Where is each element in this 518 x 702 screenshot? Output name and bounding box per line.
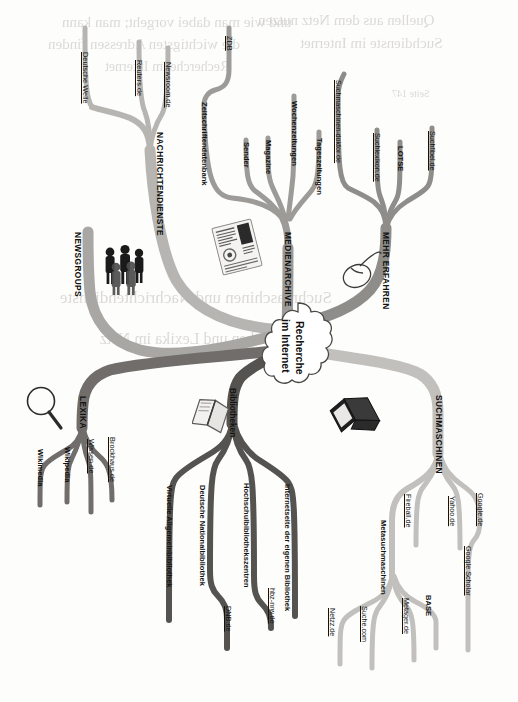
leaf-label-yahoo-de[interactable]: Yahoo.de: [449, 496, 456, 526]
sub-label-magazine[interactable]: Magazine: [264, 140, 272, 174]
leaf-label-newsroom-de[interactable]: Newsroom.de: [165, 62, 172, 108]
leaf-label-metager-de[interactable]: Metager.de: [403, 598, 410, 634]
leaf-label-suche-com[interactable]: Suche.com: [361, 606, 368, 642]
people-group-icon: [98, 243, 152, 295]
sub-label-internetseite-eigene-bibliothek[interactable]: Internetseite der eigenen Bibliothek: [284, 484, 292, 611]
leaf-label-dnb-de[interactable]: DNB.de: [225, 606, 232, 632]
mindmap-page: und wie man dabei vorgeht; man kann Quel…: [0, 0, 518, 702]
leaf-label-suchmaschinen-doktor-de[interactable]: Suchmaschinen-doktor.de: [335, 80, 342, 163]
branch-label-newsgroups[interactable]: NEWSGROUPS: [74, 232, 82, 297]
leaf-label-wissen-de[interactable]: Wissen.de: [88, 439, 95, 474]
center-node-line2: im Internet: [280, 319, 292, 373]
leaf-label-deutsche-welle[interactable]: Deutsche Welle: [82, 52, 89, 104]
magnifying-glass-icon: [22, 385, 66, 433]
leaf-label-netzz-de[interactable]: Netzz.de: [329, 608, 336, 636]
leaf-label-zdb[interactable]: ZDB: [226, 36, 233, 51]
branch-medienarchive: [204, 28, 319, 325]
sub-label-tageszeitungen[interactable]: Tageszeitungen: [315, 138, 323, 195]
sub-label-metasuchmaschinen[interactable]: Metasuchmaschinen: [379, 520, 387, 595]
leaf-label-suchlexikon-de[interactable]: Suchlexikon.de: [374, 133, 381, 182]
center-node-line1: Recherche: [294, 321, 306, 375]
open-book-icon: [192, 394, 232, 434]
computer-mouse-icon: [338, 246, 384, 292]
branch-label-suchmaschinen[interactable]: SUCHMASCHINEN: [435, 395, 443, 474]
sub-label-deutsche-nationalbibliothek[interactable]: Deutsche Nationalbibliothek: [199, 485, 207, 586]
sub-label-wikipedia[interactable]: Wikipedia: [63, 447, 71, 482]
sub-label-wochenzeitungen[interactable]: Wochenzeitungen: [290, 101, 298, 166]
laptop-icon: [329, 394, 381, 444]
sub-label-wikimedia[interactable]: Wikimedia: [36, 449, 44, 487]
sub-label-lotse[interactable]: LOTSE: [396, 146, 404, 171]
branch-label-medienarchive[interactable]: MEDIENARCHIVE: [284, 232, 292, 307]
leaf-label-google-de[interactable]: Google.de: [477, 493, 484, 526]
leaf-label-reuters-de[interactable]: Reuters.de: [136, 60, 143, 96]
sub-label-virtuelle-allgemeinbibliothek[interactable]: Virtuelle Allgemeinbibliothek: [166, 485, 174, 588]
sub-label-hochschulbibliothekszentren[interactable]: Hochschulbibliothekszentren: [243, 483, 251, 588]
leaf-label-suchfibel-de[interactable]: Suchfibel.de: [429, 131, 436, 171]
sub-label-zeitschriftendatenbank[interactable]: Zeitschriftendatenbank: [200, 102, 208, 186]
branch-label-nachrichtendienste[interactable]: NACHRICHTENDIENSTE: [156, 132, 164, 236]
leaf-label-fireball-de[interactable]: Fireball.de: [405, 494, 412, 528]
sub-label-base[interactable]: BASE: [424, 595, 432, 616]
sub-label-sender[interactable]: Sender: [242, 142, 250, 168]
branch-label-lexika[interactable]: LEXIKA: [79, 396, 87, 429]
leaf-label-hbz-nrw-de[interactable]: hbz-nrw.de: [269, 588, 276, 624]
leaf-label-google-scholar[interactable]: Google Scholar: [465, 546, 472, 596]
mindmap-branches: [0, 0, 518, 702]
center-node[interactable]: Recherche im Internet: [262, 301, 334, 397]
leaf-label-brockhaus-de[interactable]: Brockhaus.de: [109, 437, 116, 482]
